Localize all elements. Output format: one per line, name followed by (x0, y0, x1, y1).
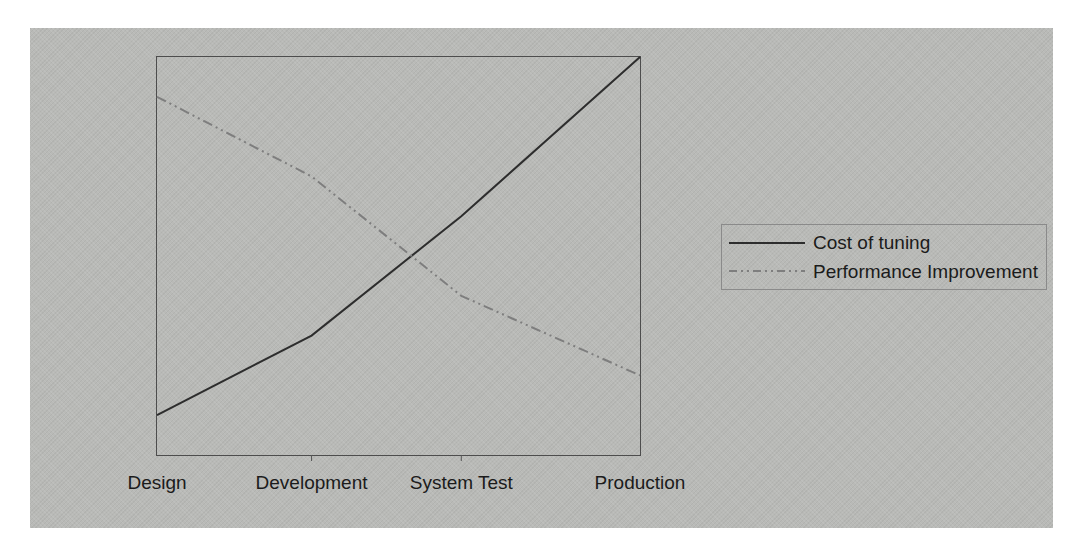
x-axis: Design Development System Test Productio… (157, 472, 640, 496)
dash-dot-line-swatch-icon (729, 268, 805, 274)
x-axis-label: System Test (410, 472, 513, 494)
series-line-1 (157, 97, 640, 376)
legend: Cost of tuning Performance Improvement (721, 224, 1047, 290)
series-line-0 (157, 57, 640, 415)
legend-item-performance-improvement: Performance Improvement (729, 261, 1046, 282)
plot-svg (157, 57, 640, 455)
page: { "chart_data": { "type": "line", "categ… (0, 0, 1078, 550)
x-axis-label: Production (595, 472, 686, 494)
plot-area (156, 56, 641, 456)
solid-line-swatch-icon (729, 240, 805, 246)
scanned-chart-panel: Design Development System Test Productio… (30, 28, 1053, 528)
legend-label: Cost of tuning (813, 232, 930, 253)
legend-label: Performance Improvement (813, 261, 1038, 282)
legend-item-cost-of-tuning: Cost of tuning (729, 232, 1046, 253)
x-axis-label: Development (256, 472, 368, 494)
x-axis-label: Design (127, 472, 186, 494)
